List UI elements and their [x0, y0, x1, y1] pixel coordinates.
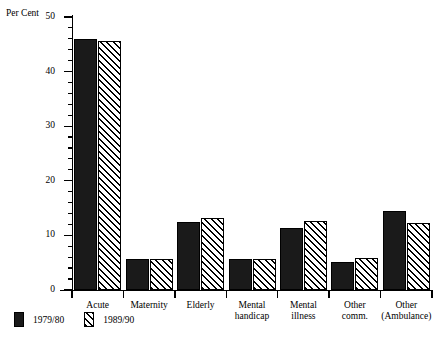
bar: [74, 39, 97, 290]
x-tick: [328, 290, 329, 298]
x-category-label: Mental handicap: [235, 300, 269, 321]
x-tick: [380, 290, 381, 298]
legend-label: 1989/90: [103, 315, 134, 325]
x-category-label: Elderly: [187, 300, 215, 311]
bar: [201, 218, 224, 290]
x-tick: [123, 290, 124, 298]
legend-entry: 1979/80: [14, 312, 64, 327]
bar: [253, 259, 276, 290]
bar: [383, 211, 406, 290]
y-tick-label: 20: [46, 176, 56, 186]
plot-area: [72, 17, 432, 290]
y-tick-label: 30: [46, 121, 56, 131]
legend-swatch: [14, 312, 24, 327]
x-tick: [71, 290, 72, 298]
x-category-label: Maternity: [130, 300, 167, 311]
legend-label: 1979/80: [33, 315, 64, 325]
bar: [177, 222, 200, 290]
x-tick: [226, 290, 227, 298]
y-tick-label: 40: [46, 67, 56, 77]
x-tick: [174, 290, 175, 298]
x-category-label: Acute: [86, 300, 109, 311]
x-category-label: Mental illness: [290, 300, 317, 321]
bar: [280, 228, 303, 290]
bar: [126, 259, 149, 290]
bars-layer: [72, 17, 432, 290]
bar-chart: Per Cent 01020304050 AcuteMaternityElder…: [0, 0, 444, 338]
y-tick-label: 0: [50, 285, 55, 295]
x-tick: [277, 290, 278, 298]
x-category-label: Other (Ambulance): [381, 300, 431, 321]
x-axis-line: [60, 290, 432, 291]
legend-entry: 1989/90: [84, 312, 134, 327]
legend: 1979/801989/90: [14, 312, 134, 327]
bar: [355, 258, 378, 290]
bar: [229, 259, 252, 290]
bar: [304, 221, 327, 290]
bar: [150, 259, 173, 290]
x-category-label: Other comm.: [342, 300, 368, 321]
legend-swatch: [84, 312, 94, 327]
y-tick-label: 50: [46, 12, 56, 22]
bar: [98, 41, 121, 290]
bar: [407, 223, 430, 290]
x-tick: [431, 290, 432, 298]
bar: [331, 262, 354, 290]
y-tick-label: 10: [46, 231, 56, 241]
